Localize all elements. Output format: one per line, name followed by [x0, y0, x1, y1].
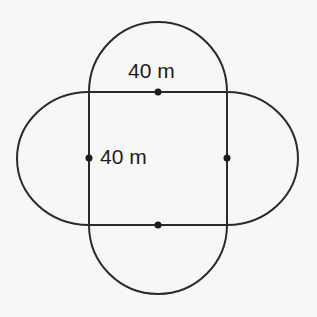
bottom-midpoint-dot — [155, 222, 162, 229]
side-dimension-label: 40 m — [100, 145, 147, 169]
left-semicircle — [17, 92, 89, 225]
right-midpoint-dot — [224, 155, 231, 162]
top-dimension-label: 40 m — [128, 59, 175, 83]
right-semicircle — [227, 92, 298, 225]
diagram-canvas: 40 m 40 m — [0, 0, 317, 317]
top-midpoint-dot — [155, 89, 162, 96]
left-midpoint-dot — [86, 155, 93, 162]
bottom-semicircle — [89, 225, 227, 294]
shape-diagram — [0, 0, 317, 317]
